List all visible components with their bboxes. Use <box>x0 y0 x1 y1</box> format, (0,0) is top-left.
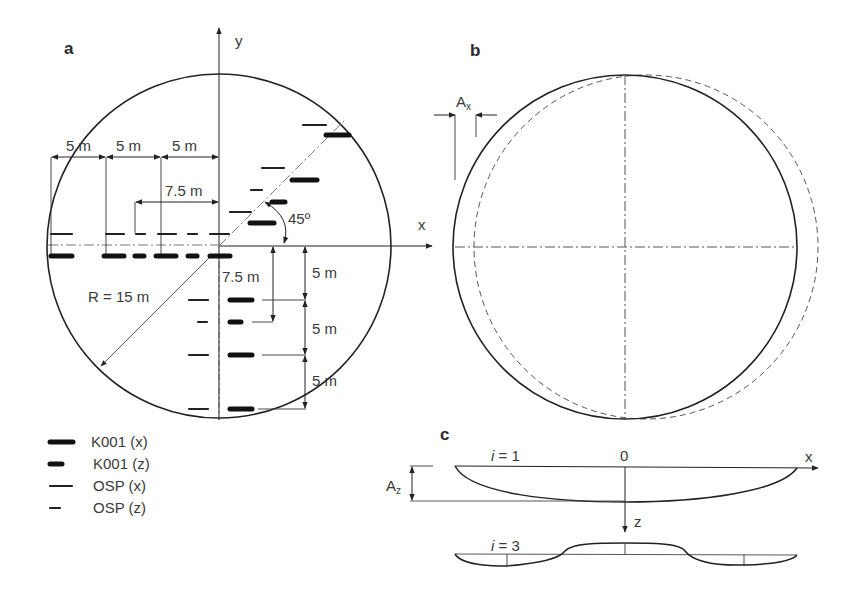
c-z-axis-label: z <box>634 513 642 530</box>
dim-label-5m-v2: 5 m <box>312 320 337 337</box>
x-axis-label: x <box>418 216 426 233</box>
dim-label-5m-1: 5 m <box>66 137 91 154</box>
dim-label-5m-v3: 5 m <box>312 372 337 389</box>
diagonal-45 <box>219 120 345 246</box>
panel-c: c x 0 i = 1 z Az i = 3 <box>386 425 818 567</box>
svg-text:K001 (z): K001 (z) <box>93 455 150 472</box>
mode-3-baseline <box>455 554 797 555</box>
figure: a y x R = 15 m 45º 5 m 5 m 5 m 7.5 m <box>0 0 862 605</box>
legend-item-osp-z: OSP (z) <box>50 499 146 516</box>
radius-label: R = 15 m <box>88 288 149 305</box>
mode-3-label: i = 3 <box>491 537 520 554</box>
dim-label-5m-2: 5 m <box>116 137 141 154</box>
sensors-diagonal <box>230 125 349 223</box>
legend-item-k001-z: K001 (z) <box>50 455 150 472</box>
radius-line <box>101 254 213 366</box>
legend-item-k001-x: K001 (x) <box>50 433 148 450</box>
dim-label-5m-3: 5 m <box>172 137 197 154</box>
sensors-vertical <box>189 300 252 409</box>
c-origin-label: 0 <box>620 447 628 464</box>
legend-item-osp-x: OSP (x) <box>50 477 146 494</box>
legend: K001 (x) K001 (z) OSP (x) OSP (z) <box>50 433 150 516</box>
c-x-axis-label: x <box>805 448 813 465</box>
dim-label-5m-v1: 5 m <box>312 264 337 281</box>
panel-b-label: b <box>470 41 480 60</box>
svg-text:OSP (x): OSP (x) <box>93 477 146 494</box>
mode-1-label: i = 1 <box>491 447 520 464</box>
panel-a-label: a <box>64 39 74 58</box>
dim-label-7-5m-h: 7.5 m <box>165 182 203 199</box>
amplitude-z-label: Az <box>386 477 401 496</box>
panel-a: a y x R = 15 m 45º 5 m 5 m 5 m 7.5 m <box>47 28 432 420</box>
amplitude-x-label: Ax <box>456 93 471 112</box>
mode-1-shape <box>455 466 797 502</box>
panel-b: b Ax <box>434 41 818 419</box>
y-axis-label: y <box>235 32 243 49</box>
dim-label-7-5m-v: 7.5 m <box>222 268 260 285</box>
angle-label: 45º <box>288 210 311 227</box>
svg-text:K001 (x): K001 (x) <box>91 433 148 450</box>
panel-c-label: c <box>440 425 449 444</box>
svg-text:OSP (z): OSP (z) <box>93 499 146 516</box>
c-x-axis <box>455 466 818 468</box>
